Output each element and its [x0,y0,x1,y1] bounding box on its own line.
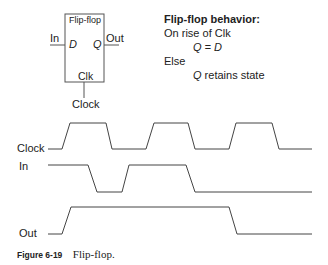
figure-number: Figure 6-19 [17,250,62,260]
behavior-line-3: Else [164,55,185,67]
in-wire-label: In [50,32,59,44]
clock-signal-label: Clock [17,142,45,154]
q-port-label: Q [93,38,102,50]
flip-flop-title: Flip-flop [69,15,101,25]
behavior-line-1: On rise of Clk [164,27,231,39]
figure-caption: Figure 6-19 Flip-flop. [17,244,115,262]
figure-title: Flip-flop. [73,248,115,260]
behavior-line-4: Q retains state [193,69,265,81]
clock-wire-label: Clock [72,98,100,110]
out-waveform [48,207,312,234]
behavior-line-2: Q = D [193,41,222,53]
in-signal-label: In [19,160,28,172]
retains-state-text: retains state [202,69,265,81]
d-port-label: D [69,38,77,50]
out-signal-label: Out [19,227,37,239]
q-symbol: Q [193,69,202,81]
clock-waveform [48,123,312,149]
clk-port-label: Clk [78,70,93,82]
behavior-heading: Flip-flop behavior: [164,13,260,25]
in-waveform [48,165,312,192]
out-wire-label: Out [106,32,124,44]
